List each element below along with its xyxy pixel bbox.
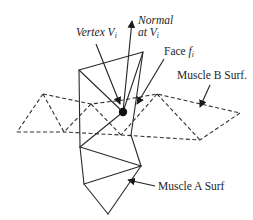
muscle-b-edge [17,94,43,132]
muscle-b-edge [43,94,64,132]
muscle-b-label-pointer [200,85,210,107]
muscle-b-edge [91,104,121,135]
muscle-a-edge [80,147,84,184]
muscle-b-edge [157,94,200,140]
normal-label-line2: at Vi [138,26,159,40]
muscle-a-label: Muscle A Surf [158,180,225,192]
vertex-label-pointer [96,44,120,104]
muscle-a-edge [84,184,108,214]
muscle-a-edge [79,70,80,147]
muscle-a-edge [80,112,123,147]
muscle-a-label-pointer [128,180,155,186]
vertex-vi-dot [119,108,127,116]
face-label: Face fi [164,45,194,59]
muscle-a-edge [108,166,141,214]
muscle-b-bottom-edge [17,113,240,140]
muscle-b-mesh [17,94,240,140]
muscle-a-edge [131,135,141,166]
vertex-label: Vertex Vi [76,26,117,40]
muscle-surface-diagram: Normal at Vi Vertex Vi Face fi Muscle B … [0,0,253,220]
normal-label-line1: Normal [137,14,173,26]
muscle-a-edge [80,147,141,166]
muscle-b-label: Muscle B Surf. [177,69,247,81]
muscle-a-edge [131,52,143,135]
muscle-b-edge [64,104,91,132]
